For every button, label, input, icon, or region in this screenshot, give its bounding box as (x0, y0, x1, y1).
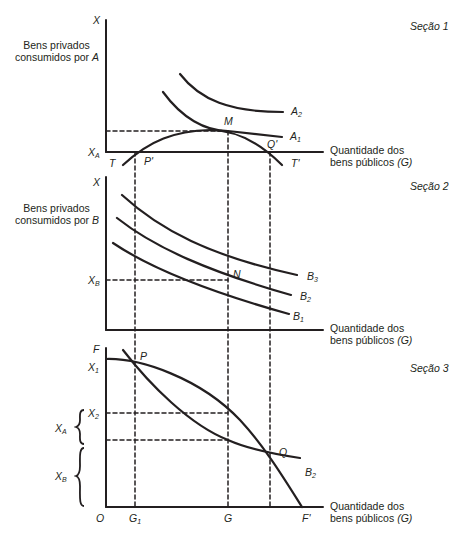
label-B1: B1 (293, 310, 304, 326)
brace-label-xb: XB (55, 470, 67, 486)
point-T-prime: T' (291, 157, 299, 169)
section3-x-title: Quantidade dos bens públicos (G) (330, 500, 412, 524)
label-A1: A1 (290, 130, 301, 146)
label-G: G (224, 512, 232, 524)
section2-y-symbol: X (93, 176, 100, 188)
label-B3: B3 (307, 270, 318, 286)
point-M: M (224, 115, 233, 127)
brace-xa-icon (76, 410, 84, 444)
label-B2: B2 (300, 290, 311, 306)
section1-y-title: Bens privados consumidos por A (15, 39, 98, 63)
section1-x-title: Quantidade dos bens públicos (G) (330, 144, 412, 168)
label-F-prime: F' (302, 512, 310, 524)
label-O: O (96, 512, 104, 524)
point-N: N (233, 268, 241, 280)
brace-label-xa: XA (55, 422, 67, 438)
label-A2: A2 (291, 105, 302, 121)
label-X2: X2 (88, 407, 99, 423)
section2-y-title: Bens privados consumidos por B (15, 202, 98, 226)
section2-axes (106, 177, 323, 330)
indifference-curve-A2 (180, 74, 283, 112)
tick-label-xb: XB (88, 274, 100, 290)
diagram-canvas (0, 0, 462, 550)
section1-title: Seção 1 (410, 20, 449, 32)
section1-y-symbol: X (93, 14, 100, 26)
section3-axes (106, 348, 323, 507)
section2-title: Seção 2 (410, 180, 449, 192)
point-P: P (140, 350, 147, 362)
label-G1: G1 (129, 512, 141, 528)
brace-icons (74, 408, 88, 510)
section3-title: Seção 3 (410, 362, 449, 374)
indifference-curve-B2 (117, 218, 291, 295)
brace-xb-icon (76, 448, 84, 506)
point-Q: Q (279, 446, 287, 458)
point-P-prime: P' (144, 155, 153, 167)
indifference-curve-B1 (113, 243, 289, 314)
label-B2-section3: B2 (305, 466, 316, 482)
point-T: T (109, 157, 115, 169)
label-X1: X1 (88, 361, 99, 377)
label-F: F (93, 343, 99, 355)
point-Q-prime: Q' (267, 138, 277, 150)
tick-label-xa: XA (88, 146, 100, 162)
section2-x-title: Quantidade dos bens públicos (G) (330, 322, 412, 346)
